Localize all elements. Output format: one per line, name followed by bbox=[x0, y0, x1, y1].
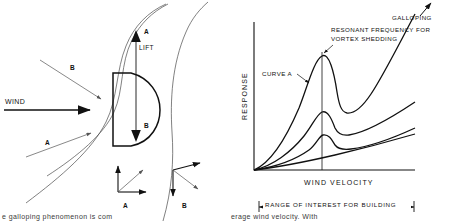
curve-c-line bbox=[254, 128, 415, 170]
streamline-a-label: A bbox=[45, 139, 50, 146]
streamline-arrow-a bbox=[26, 133, 91, 157]
wind-label: WIND bbox=[5, 98, 25, 105]
x-axis-label: WIND VELOCITY bbox=[304, 179, 374, 186]
lift-down-label: B bbox=[144, 122, 149, 129]
vector-triad-a-label: A bbox=[123, 202, 128, 209]
range-of-interest-bracket: RANGE OF INTEREST FOR BUILDING bbox=[259, 198, 414, 212]
lift-label: LIFT bbox=[139, 44, 154, 51]
curve-a-leader bbox=[297, 74, 309, 83]
lift-up-label: A bbox=[144, 28, 149, 35]
caption-left-text: e galloping phenomenon is com bbox=[2, 213, 112, 221]
vector-triad-a: A bbox=[118, 166, 146, 209]
wind-flow-diagram-panel: A B LIFT WIND B A A B e galloping phenom… bbox=[0, 0, 229, 221]
resonant-annotation-line2: VORTEX SHEDDING bbox=[331, 35, 397, 42]
resonant-annotation-leader bbox=[324, 45, 333, 53]
curve-a-label: CURVE A bbox=[262, 70, 293, 77]
response-chart-panel: GALLOPING RESONANT FREQUENCY FOR VORTEX … bbox=[229, 0, 458, 221]
vector-triad-b: B bbox=[173, 163, 200, 209]
response-chart-svg: GALLOPING RESONANT FREQUENCY FOR VORTEX … bbox=[229, 0, 458, 221]
vector-triad-b-label: B bbox=[182, 202, 187, 209]
curve-b-line bbox=[254, 102, 415, 170]
lift-arrow-up-head bbox=[131, 30, 141, 42]
resonant-annotation-line1: RESONANT FREQUENCY FOR bbox=[331, 26, 430, 33]
range-of-interest-label: RANGE OF INTEREST FOR BUILDING bbox=[265, 201, 396, 208]
triad-b-resultant-vector bbox=[173, 170, 198, 189]
triad-b-upper-vector bbox=[173, 163, 200, 170]
lift-arrow-down-head bbox=[131, 130, 141, 142]
streamline-right bbox=[163, 2, 208, 221]
galloping-label: GALLOPING bbox=[392, 14, 432, 21]
streamline-inner bbox=[47, 4, 168, 176]
caption-right-text: erage wind velocity. With bbox=[231, 213, 318, 221]
wind-flow-svg: A B LIFT WIND B A A B e galloping phenom… bbox=[0, 0, 229, 221]
y-axis-label: RESPONSE bbox=[241, 72, 248, 120]
triad-a-resultant-vector bbox=[118, 170, 143, 192]
streamline-b-label: B bbox=[70, 64, 75, 71]
